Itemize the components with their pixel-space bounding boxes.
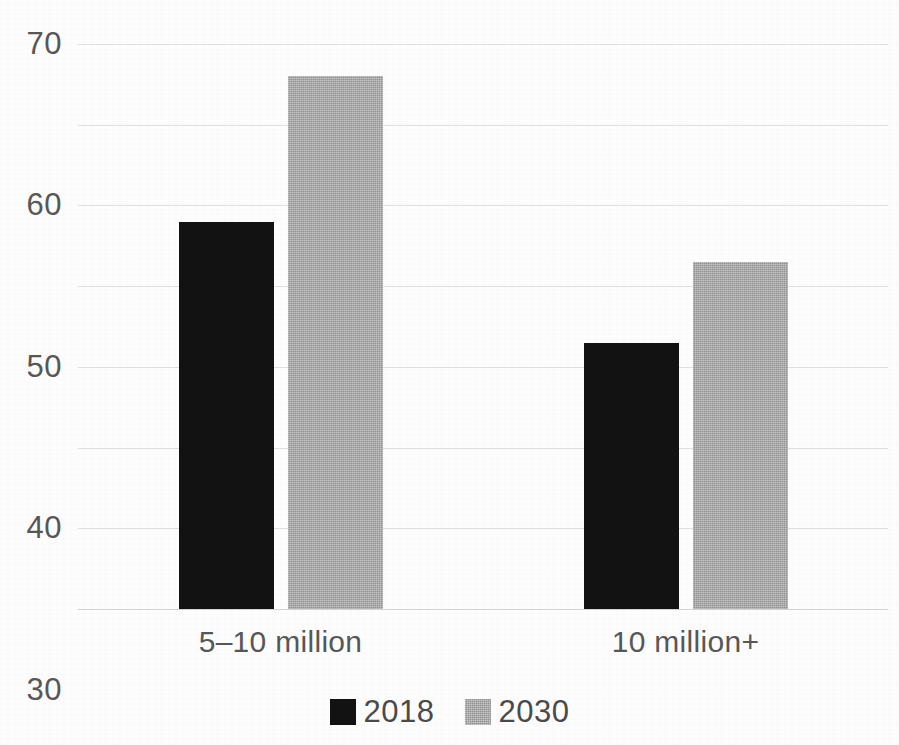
bar-chart-figure: 010203040506070 5–10 million10 million+ … (0, 0, 899, 745)
legend-swatch-icon (465, 699, 491, 725)
y-axis-tick-label: 40 (27, 510, 62, 546)
bar-2030-2[interactable] (693, 262, 788, 609)
gridline: 50 (78, 205, 888, 206)
legend-label: 2030 (499, 694, 570, 730)
legend-label: 2018 (364, 694, 435, 730)
x-axis-tick-label: 10 million+ (612, 625, 760, 659)
x-axis-tick-label: 5–10 million (199, 625, 363, 659)
plot-area: 010203040506070 (78, 44, 888, 609)
legend-item-2018[interactable]: 2018 (330, 694, 435, 730)
axis-baseline: 0 (78, 609, 888, 610)
cut-off-chart-title (0, 0, 899, 14)
y-axis-tick-label: 60 (27, 187, 62, 223)
y-axis-tick-label: 50 (27, 349, 62, 385)
legend-swatch-icon (330, 699, 356, 725)
bar-2030-1[interactable] (288, 76, 383, 609)
bar-2018-2[interactable] (584, 343, 679, 609)
y-axis-tick-label: 70 (27, 26, 62, 62)
gridline: 60 (78, 125, 888, 126)
gridline: 70 (78, 44, 888, 45)
chart-legend: 20182030 (0, 694, 899, 730)
bar-2018-1[interactable] (179, 222, 274, 609)
legend-item-2030[interactable]: 2030 (465, 694, 570, 730)
